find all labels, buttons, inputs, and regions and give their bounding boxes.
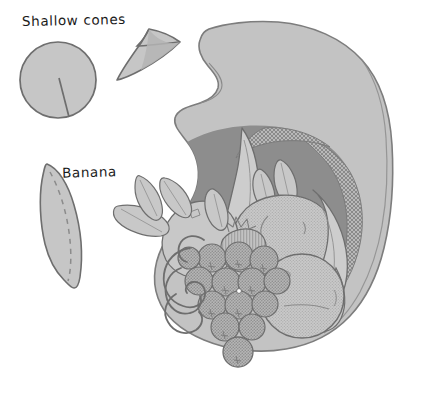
pattern-pieces	[20, 29, 180, 288]
slit-circle-piece	[20, 42, 96, 118]
label-shallow-cones: Shallow cones	[22, 11, 126, 29]
cornucopia-illustration	[0, 0, 432, 395]
grape	[239, 314, 265, 340]
grape	[225, 242, 253, 270]
grape	[252, 291, 278, 317]
banana-crescent-piece	[40, 164, 81, 288]
label-banana: Banana	[62, 163, 117, 181]
grape	[264, 268, 290, 294]
grape-highlight	[237, 289, 242, 294]
leaf-3	[160, 178, 192, 218]
illustration-canvas: Shallow cones Banana	[0, 0, 432, 395]
